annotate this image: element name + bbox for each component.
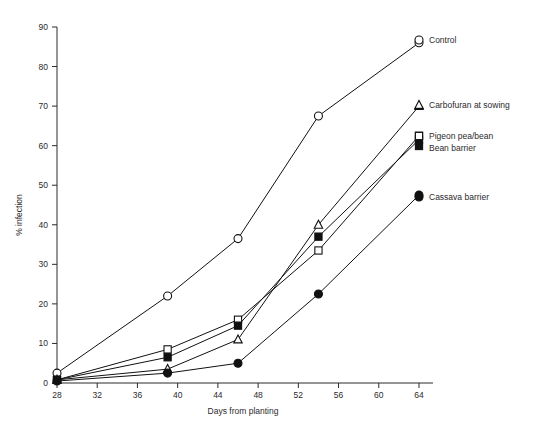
data-point-marker bbox=[315, 247, 322, 254]
x-tick-label: 32 bbox=[92, 390, 102, 400]
y-tick-label: 70 bbox=[39, 101, 49, 111]
legend-label-text: Control bbox=[429, 35, 457, 45]
x-axis: 28323640444852566064 bbox=[52, 383, 433, 400]
legend-label-text: Pigeon pea/bean bbox=[429, 131, 494, 141]
y-tick-label: 20 bbox=[39, 299, 49, 309]
data-point-marker bbox=[53, 377, 61, 385]
x-tick-label: 48 bbox=[253, 390, 263, 400]
legend-item-cassava-barrier: Cassava barrier bbox=[415, 192, 489, 202]
chart-legend: ControlCarbofuran at sowingPigeon pea/be… bbox=[415, 35, 510, 202]
legend-label-text: Bean barrier bbox=[429, 143, 476, 153]
x-axis-title: Days from planting bbox=[208, 406, 279, 416]
data-point-marker bbox=[164, 346, 171, 353]
legend-marker-filled-square bbox=[415, 142, 422, 149]
series-pigeon-pea-bean bbox=[53, 132, 422, 383]
y-tick-label: 40 bbox=[39, 220, 49, 230]
data-point-marker bbox=[234, 359, 242, 367]
line-chart-canvas: 0102030405060708090 28323640444852566064… bbox=[0, 0, 544, 436]
series-cassava-barrier bbox=[53, 191, 423, 385]
x-tick-label: 36 bbox=[133, 390, 143, 400]
series-polyline bbox=[57, 140, 419, 380]
data-point-marker bbox=[164, 369, 172, 377]
data-point-marker bbox=[164, 354, 171, 361]
data-point-marker bbox=[315, 233, 322, 240]
y-tick-label: 0 bbox=[43, 378, 48, 388]
legend-marker-open-triangle bbox=[415, 100, 423, 108]
y-tick-label: 60 bbox=[39, 141, 49, 151]
legend-item-carbofuran-at-sowing: Carbofuran at sowing bbox=[415, 100, 510, 110]
series-layer bbox=[53, 39, 423, 385]
legend-label-text: Cassava barrier bbox=[429, 192, 489, 202]
data-point-marker bbox=[234, 235, 242, 243]
legend-item-bean-barrier: Bean barrier bbox=[415, 142, 476, 153]
legend-marker-open-circle bbox=[415, 36, 423, 44]
x-tick-label: 40 bbox=[173, 390, 183, 400]
y-tick-label: 80 bbox=[39, 62, 49, 72]
data-point-marker bbox=[234, 322, 241, 329]
x-tick-label: 56 bbox=[334, 390, 344, 400]
data-point-marker bbox=[314, 112, 322, 120]
legend-marker-filled-circle bbox=[415, 193, 423, 201]
legend-marker-open-square bbox=[415, 132, 422, 139]
data-point-marker bbox=[164, 292, 172, 300]
legend-item-control: Control bbox=[415, 35, 457, 45]
legend-item-pigeon-pea-bean: Pigeon pea/bean bbox=[415, 131, 493, 141]
y-tick-label: 10 bbox=[39, 338, 49, 348]
x-tick-label: 64 bbox=[414, 390, 424, 400]
x-tick-label: 44 bbox=[213, 390, 223, 400]
legend-label-text: Carbofuran at sowing bbox=[429, 100, 510, 110]
y-axis-title: % infection bbox=[14, 194, 24, 236]
series-bean-barrier bbox=[53, 136, 422, 383]
data-point-marker bbox=[314, 290, 322, 298]
series-polyline bbox=[57, 195, 419, 381]
y-tick-label: 30 bbox=[39, 259, 49, 269]
chart-figure: 0102030405060708090 28323640444852566064… bbox=[0, 0, 544, 436]
y-tick-label: 50 bbox=[39, 180, 49, 190]
y-tick-label: 90 bbox=[39, 22, 49, 32]
y-axis: 0102030405060708090 bbox=[39, 22, 57, 388]
x-tick-label: 60 bbox=[374, 390, 384, 400]
x-tick-label: 28 bbox=[52, 390, 62, 400]
x-tick-label: 52 bbox=[294, 390, 304, 400]
